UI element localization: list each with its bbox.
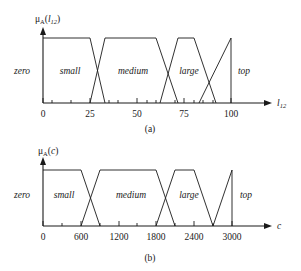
x-axis-ticks-b	[43, 221, 232, 226]
tick-label: 600	[74, 232, 89, 242]
y-axis-label-b: μA(c)	[38, 146, 58, 157]
x-axis-arrow-icon-a	[264, 100, 272, 106]
set-label-zero-a: zero	[13, 66, 30, 76]
curve-top-a	[199, 38, 231, 103]
y-axis-arrow-icon-b	[40, 157, 46, 165]
set-label-large-a: large	[179, 66, 199, 76]
tick-label: 1800	[147, 232, 166, 242]
x-axis-tick-labels-b: 0 600 1200 1800 2400 3000	[41, 232, 242, 242]
tick-label: 1200	[110, 232, 129, 242]
curve-top-b	[213, 170, 232, 226]
caption-b: (b)	[144, 253, 155, 264]
figure-container: μA(l12) l12	[0, 0, 301, 271]
tick-label: 75	[179, 109, 189, 119]
x-axis-title-sub-a: 12	[280, 102, 287, 109]
x-axis-title-main-b: c	[277, 221, 282, 231]
tick-label: 25	[85, 109, 95, 119]
tick-label: 50	[132, 109, 142, 119]
panel-a: μA(l12) l12	[0, 0, 301, 135]
tick-label: 0	[41, 232, 46, 242]
y-axis-arrow-icon-a	[40, 27, 46, 35]
chart-b: μA(c) c	[0, 136, 301, 271]
set-label-small-a: small	[60, 66, 81, 76]
set-label-zero-b: zero	[13, 190, 30, 200]
tick-label: 100	[224, 109, 239, 119]
x-axis-arrow-icon-b	[264, 223, 272, 229]
set-label-medium-a: medium	[118, 66, 148, 76]
set-label-small-b: small	[54, 190, 75, 200]
tick-label: 2400	[185, 232, 204, 242]
set-label-large-b: large	[179, 190, 199, 200]
panel-b: μA(c) c	[0, 136, 301, 271]
tick-label: 0	[41, 109, 46, 119]
x-axis-title-b: c	[277, 221, 282, 231]
set-label-medium-b: medium	[116, 190, 146, 200]
x-axis-tick-labels-a: 0 25 50 75 100	[41, 109, 239, 119]
y-axis-label-a: μA(l12)	[35, 14, 60, 25]
tick-label: 3000	[223, 232, 242, 242]
chart-a: μA(l12) l12	[0, 0, 301, 135]
caption-a: (a)	[145, 124, 156, 135]
x-axis-title-a: l12	[277, 98, 287, 109]
set-label-top-b: top	[240, 190, 252, 200]
set-label-top-a: top	[238, 66, 250, 76]
